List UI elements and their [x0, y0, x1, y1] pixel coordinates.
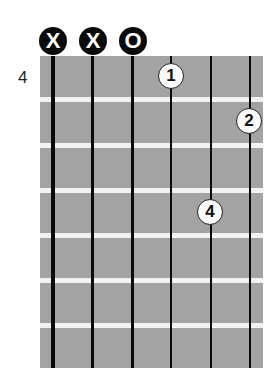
string-4 — [131, 56, 134, 368]
fret-line — [40, 143, 263, 148]
fretboard — [40, 56, 263, 368]
fret-line — [40, 97, 263, 102]
open-string-marker: O — [119, 27, 147, 55]
finger-dot: 1 — [158, 63, 184, 89]
finger-dot: 2 — [236, 108, 262, 134]
string-1 — [249, 56, 251, 368]
fret-line — [40, 278, 263, 283]
finger-dot: 4 — [197, 199, 223, 225]
muted-string-marker: X — [79, 27, 107, 55]
string-3 — [170, 56, 172, 368]
starting-fret-label: 4 — [18, 68, 27, 88]
fret-line — [40, 233, 263, 238]
fret-line — [40, 323, 263, 328]
muted-string-marker: X — [39, 27, 67, 55]
string-5 — [91, 56, 94, 368]
fret-line — [40, 188, 263, 193]
string-6 — [51, 56, 55, 368]
